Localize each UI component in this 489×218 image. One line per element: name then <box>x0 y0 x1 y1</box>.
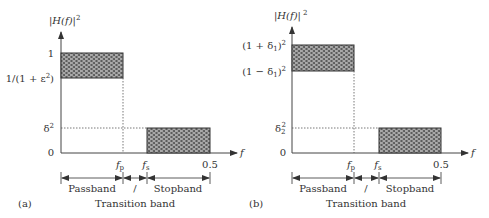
x-axis-label-a: f <box>239 147 246 158</box>
y-tick-1-a: 1 <box>48 48 54 59</box>
passband-region-a <box>61 53 123 78</box>
panel-caption-a: (a) <box>18 198 32 209</box>
panel-caption-b: (b) <box>249 198 263 209</box>
x-tick-fp-a: fp <box>115 159 125 172</box>
y-tick-delta-a: δ2 <box>44 122 55 134</box>
stopband-label-b: Stopband <box>386 183 435 194</box>
transition-mark-a: / <box>133 183 137 194</box>
panel-a: |H(f)|2 f 1 1/(1 + ε2) δ2 0 fp fs 0.5 Pa… <box>6 14 246 209</box>
stopband-region-b <box>379 128 441 153</box>
transition-band-label-a: Transition band <box>95 198 176 209</box>
y-axis-label-b: |H(f)|2 <box>274 9 307 22</box>
x-axis-label-b: f <box>470 147 477 158</box>
x-tick-fs-a: fs <box>141 159 150 172</box>
x-tick-half-b: 0.5 <box>433 159 449 170</box>
y-tick-0-b: 0 <box>280 147 286 158</box>
y-tick-0-a: 0 <box>48 147 54 158</box>
y-axis-label-a: |H(f)|2 <box>49 14 80 27</box>
passband-label-b: Passband <box>299 183 347 194</box>
y-tick-passband-max-b: (1 + δ1)2 <box>242 39 286 53</box>
passband-label-a: Passband <box>68 183 116 194</box>
transition-band-label-b: Transition band <box>326 198 407 209</box>
y-tick-passband-min-a: 1/(1 + ε2) <box>6 72 54 84</box>
stopband-label-a: Stopband <box>154 183 203 194</box>
x-tick-fs-b: fs <box>373 159 382 172</box>
y-tick-passband-min-b: (1 − δ1)2 <box>242 65 286 79</box>
filter-spec-figure: |H(f)|2 f 1 1/(1 + ε2) δ2 0 fp fs 0.5 Pa… <box>0 0 489 218</box>
panel-b: |H(f)|2 f (1 + δ1)2 (1 − δ1)2 δ22 0 fp f… <box>242 9 477 209</box>
x-tick-fp-b: fp <box>346 159 356 172</box>
stopband-region-a <box>147 128 210 153</box>
passband-region-b <box>292 45 354 71</box>
transition-mark-b: / <box>364 183 368 194</box>
y-tick-delta2-b: δ22 <box>275 121 286 136</box>
x-tick-half-a: 0.5 <box>202 159 218 170</box>
